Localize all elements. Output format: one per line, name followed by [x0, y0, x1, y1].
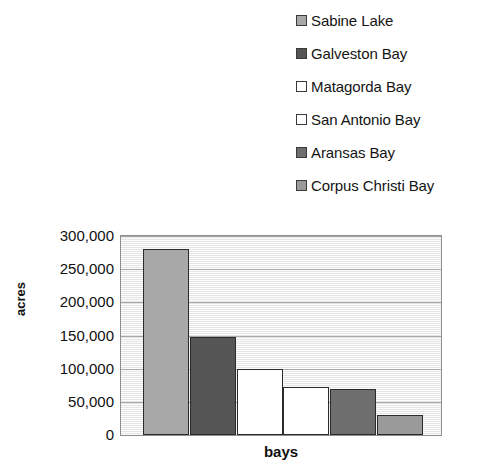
legend-item-label: Aransas Bay — [311, 145, 395, 160]
legend-item-matagorda-bay: Matagorda Bay — [296, 70, 496, 103]
bar-slot-aransas-bay — [330, 236, 377, 435]
bar-galveston-bay[interactable] — [190, 337, 236, 435]
bar-sabine-lake[interactable] — [143, 249, 189, 435]
bar-aransas-bay[interactable] — [330, 389, 376, 435]
legend-swatch-icon — [296, 114, 307, 125]
bar-corpus-christi-bay[interactable] — [377, 415, 423, 435]
plot-area — [120, 235, 442, 436]
legend-item-corpus-christi-bay: Corpus Christi Bay — [296, 169, 496, 202]
legend-swatch-icon — [296, 147, 307, 158]
legend-item-aransas-bay: Aransas Bay — [296, 136, 496, 169]
y-axis-tick-label: 50,000 — [68, 393, 114, 408]
legend-item-label: Corpus Christi Bay — [311, 178, 434, 193]
legend-item-sabine-lake: Sabine Lake — [296, 4, 496, 37]
legend-swatch-icon — [296, 48, 307, 59]
bar-series — [121, 236, 441, 435]
legend-item-label: Matagorda Bay — [311, 79, 411, 94]
legend-item-label: Galveston Bay — [311, 46, 407, 61]
legend-swatch-icon — [296, 81, 307, 92]
legend-item-san-antonio-bay: San Antonio Bay — [296, 103, 496, 136]
bar-slot-san-antonio-bay — [283, 236, 330, 435]
y-axis-tick-label: 250,000 — [60, 261, 114, 276]
legend-item-galveston-bay: Galveston Bay — [296, 37, 496, 70]
legend-item-label: San Antonio Bay — [311, 112, 420, 127]
y-axis-tick-label: 0 — [106, 427, 114, 442]
bar-san-antonio-bay[interactable] — [283, 387, 329, 435]
legend-swatch-icon — [296, 180, 307, 191]
legend-item-label: Sabine Lake — [311, 13, 393, 28]
y-axis-tick-label: 300,000 — [60, 228, 114, 243]
chart-legend: Sabine Lake Galveston Bay Matagorda Bay … — [296, 4, 496, 202]
y-axis-tick-label: 150,000 — [60, 327, 114, 342]
y-axis-tick-label: 100,000 — [60, 360, 114, 375]
y-axis-title: acres — [14, 282, 27, 316]
y-axis-tick-label: 200,000 — [60, 294, 114, 309]
bar-chart: Sabine Lake Galveston Bay Matagorda Bay … — [0, 0, 498, 474]
bar-matagorda-bay[interactable] — [237, 369, 283, 435]
legend-swatch-icon — [296, 15, 307, 26]
y-axis-ticks: 300,000 250,000 200,000 150,000 100,000 … — [18, 225, 114, 444]
bar-slot-galveston-bay — [190, 236, 237, 435]
bar-slot-sabine-lake — [143, 236, 190, 435]
bar-slot-corpus-christi-bay — [376, 236, 423, 435]
bar-slot-matagorda-bay — [236, 236, 283, 435]
x-axis-title: bays — [120, 444, 442, 459]
